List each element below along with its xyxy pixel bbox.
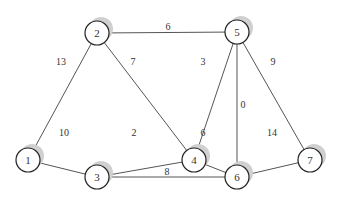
node-label: 1: [25, 154, 31, 166]
node-label: 2: [94, 27, 100, 39]
edge-weight-2-4: 7: [131, 56, 136, 67]
edge-weight-4-6: 6: [201, 127, 206, 138]
node-label: 3: [94, 171, 100, 183]
edge-weight-3-6: 8: [165, 166, 170, 177]
edges: [28, 32, 310, 177]
edge-2-4: [97, 33, 194, 160]
edge-weight-4-5: 3: [201, 56, 206, 67]
node-1: 1: [16, 144, 44, 172]
node-6: 6: [225, 161, 253, 189]
edge-5-7: [237, 32, 310, 160]
edge-2-5: [97, 32, 237, 33]
edge-weight-5-7: 9: [271, 56, 276, 67]
edge-weight-1-3: 10: [59, 127, 69, 138]
node-5: 5: [225, 16, 253, 44]
edge-weight-6-7: 14: [267, 127, 277, 138]
node-3: 3: [85, 161, 113, 189]
node-4: 4: [182, 144, 210, 172]
graph-diagram: 13 10 6 7 2 8 3 6 0 9 14 1 2 3 4 5 6: [0, 0, 337, 202]
edge-weight-2-5: 6: [166, 21, 171, 32]
edge-1-2: [28, 33, 97, 160]
node-label: 7: [307, 154, 313, 166]
node-label: 4: [191, 154, 197, 166]
edge-weight-3-4: 2: [132, 127, 137, 138]
node-label: 5: [234, 26, 240, 38]
node-label: 6: [234, 171, 240, 183]
edge-weight-5-6: 0: [241, 99, 246, 110]
edge-4-5: [194, 32, 237, 160]
edge-weight-1-2: 13: [56, 56, 66, 67]
node-7: 7: [298, 144, 326, 172]
node-2: 2: [85, 17, 113, 45]
